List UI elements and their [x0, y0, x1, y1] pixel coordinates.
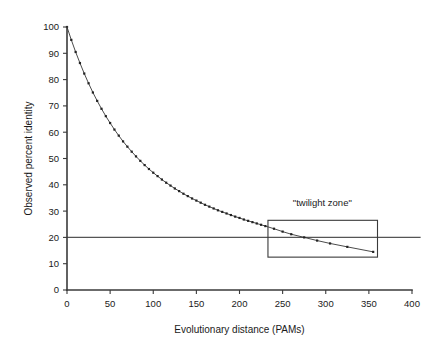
series-data-point: [105, 115, 107, 117]
y-tick-label: 50: [48, 153, 59, 164]
x-tick-label: 150: [188, 298, 204, 309]
series-data-point: [83, 72, 85, 74]
x-tick-label: 300: [318, 298, 334, 309]
series-data-point: [156, 175, 158, 177]
series-data-point: [182, 193, 184, 195]
series-data-point: [217, 209, 219, 211]
series-data-point: [178, 190, 180, 192]
x-tick-label: 200: [232, 298, 248, 309]
series-data-point: [230, 214, 232, 216]
y-tick-label: 20: [48, 232, 59, 243]
series-data-point: [290, 233, 292, 235]
series-data-point: [96, 100, 98, 102]
series-data-point: [208, 206, 210, 208]
series-data-point: [247, 220, 249, 222]
x-tick-label: 0: [64, 298, 69, 309]
series-data-point: [118, 135, 120, 137]
x-tick-label: 50: [105, 298, 116, 309]
y-tick-label: 90: [48, 48, 59, 59]
series-data-point: [79, 62, 81, 64]
series-data-point: [372, 251, 374, 253]
y-tick-label: 60: [48, 127, 59, 138]
series-data-point: [92, 91, 94, 93]
series-data-point: [213, 207, 215, 209]
series-data-point: [329, 242, 331, 244]
y-tick-label: 10: [48, 258, 59, 269]
x-tick-label: 100: [145, 298, 161, 309]
x-tick-label: 250: [275, 298, 291, 309]
y-tick-label: 0: [54, 284, 59, 295]
series-data-point: [221, 211, 223, 213]
series-data-point: [100, 108, 102, 110]
series-data-point: [256, 222, 258, 224]
series-data-point: [187, 195, 189, 197]
series-data-point: [225, 212, 227, 214]
series-data-point: [131, 151, 133, 153]
series-data-point: [195, 199, 197, 201]
series-data-point: [109, 122, 111, 124]
y-tick-label: 100: [43, 21, 59, 32]
series-data-point: [191, 197, 193, 199]
x-tick-label: 400: [404, 298, 420, 309]
series-data-point: [144, 164, 146, 166]
series-data-point: [70, 39, 72, 41]
y-tick-label: 80: [48, 74, 59, 85]
series-data-point: [87, 82, 89, 84]
series-data-point: [243, 218, 245, 220]
series-data-point: [126, 146, 128, 148]
series-data-point: [273, 228, 275, 230]
y-axis-title: Observed percent identity: [23, 102, 34, 216]
series-data-point: [346, 246, 348, 248]
series-data-point: [282, 231, 284, 233]
series-data-point: [264, 225, 266, 227]
twilight-zone-label: "twilight zone": [293, 197, 352, 208]
series-data-point: [251, 221, 253, 223]
series-data-point: [174, 187, 176, 189]
series-data-point: [75, 51, 77, 53]
series-data-point: [165, 182, 167, 184]
series-data-point: [113, 128, 115, 130]
x-tick-label: 350: [361, 298, 377, 309]
series-data-point: [316, 239, 318, 241]
series-data-point: [135, 155, 137, 157]
y-tick-label: 70: [48, 100, 59, 111]
series-data-point: [238, 217, 240, 219]
x-axis-title: Evolutionary distance (PAMs): [174, 324, 304, 335]
series-data-point: [303, 236, 305, 238]
series-data-point: [139, 160, 141, 162]
series-data-point: [122, 140, 124, 142]
chart-canvas: 0102030405060708090100 05010015020025030…: [0, 0, 436, 351]
y-tick-label: 40: [48, 179, 59, 190]
series-data-point: [169, 184, 171, 186]
series-data-point: [161, 178, 163, 180]
series-data-point: [148, 168, 150, 170]
series-data-point: [152, 172, 154, 174]
series-data-point: [200, 202, 202, 204]
y-tick-label: 30: [48, 206, 59, 217]
chart-figure: 0102030405060708090100 05010015020025030…: [0, 0, 436, 351]
series-data-point: [234, 216, 236, 218]
series-data-point: [204, 204, 206, 206]
series-data-point: [260, 224, 262, 226]
